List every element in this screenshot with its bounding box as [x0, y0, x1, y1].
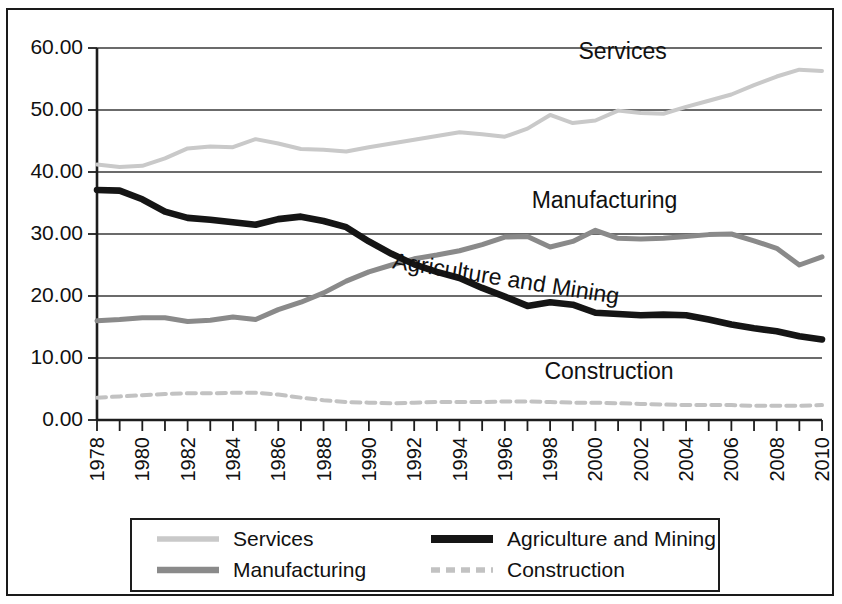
annotation-services: Services: [579, 38, 667, 64]
x-axis-tick-marks: [97, 420, 822, 431]
legend-label-services: Services: [233, 527, 314, 550]
legend-label-construction: Construction: [507, 558, 625, 581]
x-tick-label: 1980: [131, 437, 153, 482]
chart-figure: 0.0010.0020.0030.0040.0050.0060.00 19781…: [0, 0, 842, 604]
x-tick-label: 1984: [222, 437, 244, 482]
annotation-construction: Construction: [544, 358, 673, 384]
x-tick-label: 2002: [630, 437, 652, 482]
x-tick-label: 2010: [811, 437, 833, 482]
x-tick-label: 1986: [267, 437, 289, 482]
y-tick-label: 40.00: [30, 159, 83, 182]
chart-legend: ServicesAgriculture and MiningManufactur…: [131, 519, 719, 591]
x-tick-label: 1998: [539, 437, 561, 482]
x-tick-label: 2006: [720, 437, 742, 482]
series-annotations: ServicesManufacturingAgriculture and Min…: [391, 38, 677, 385]
x-tick-label: 2004: [675, 437, 697, 482]
x-tick-label: 2008: [766, 437, 788, 482]
legend-label-manufacturing: Manufacturing: [233, 558, 366, 581]
x-tick-label: 1994: [449, 437, 471, 482]
series-line-services: [97, 70, 822, 167]
x-tick-label: 2000: [584, 437, 606, 482]
x-tick-label: 1992: [403, 437, 425, 482]
x-tick-label: 1990: [358, 437, 380, 482]
y-tick-label: 50.00: [30, 97, 83, 120]
line-chart: 0.0010.0020.0030.0040.0050.0060.00 19781…: [0, 0, 842, 604]
x-axis-tick-labels: 1978198019821984198619881990199219941996…: [86, 437, 833, 482]
x-tick-label: 1978: [86, 437, 108, 482]
y-tick-label: 30.00: [30, 221, 83, 244]
x-tick-label: 1982: [177, 437, 199, 482]
plot-area-wrapper: 0.0010.0020.0030.0040.0050.0060.00 19781…: [0, 0, 842, 604]
x-tick-label: 1996: [494, 437, 516, 482]
annotation-manufacturing: Manufacturing: [532, 187, 678, 213]
y-tick-label: 60.00: [30, 35, 83, 58]
y-tick-label: 10.00: [30, 345, 83, 368]
series-line-construction: [97, 393, 822, 406]
y-axis-tick-labels: 0.0010.0020.0030.0040.0050.0060.00: [30, 35, 97, 430]
y-tick-label: 20.00: [30, 283, 83, 306]
y-tick-label: 0.00: [42, 407, 83, 430]
series-lines: [97, 70, 822, 406]
legend-label-agriculture-and-mining: Agriculture and Mining: [507, 527, 716, 550]
x-tick-label: 1988: [313, 437, 335, 482]
